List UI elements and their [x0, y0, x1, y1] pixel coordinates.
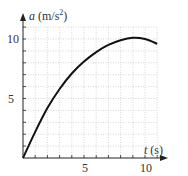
x-tick-label-10: 10 [140, 161, 152, 175]
y-axis-label: a (m/s2) [29, 8, 67, 23]
axis-ticks [23, 27, 157, 158]
y-tick-label-10: 10 [7, 32, 19, 46]
acceleration-chart: a (m/s2) t (s) 5 10 5 10 [0, 0, 188, 176]
x-axis-label: t (s) [144, 143, 163, 157]
grid [23, 27, 157, 158]
y-tick-label-5: 5 [8, 92, 14, 106]
data-curve [23, 38, 157, 158]
y-axis-arrow-icon [20, 13, 26, 21]
x-tick-label-5: 5 [82, 161, 88, 175]
